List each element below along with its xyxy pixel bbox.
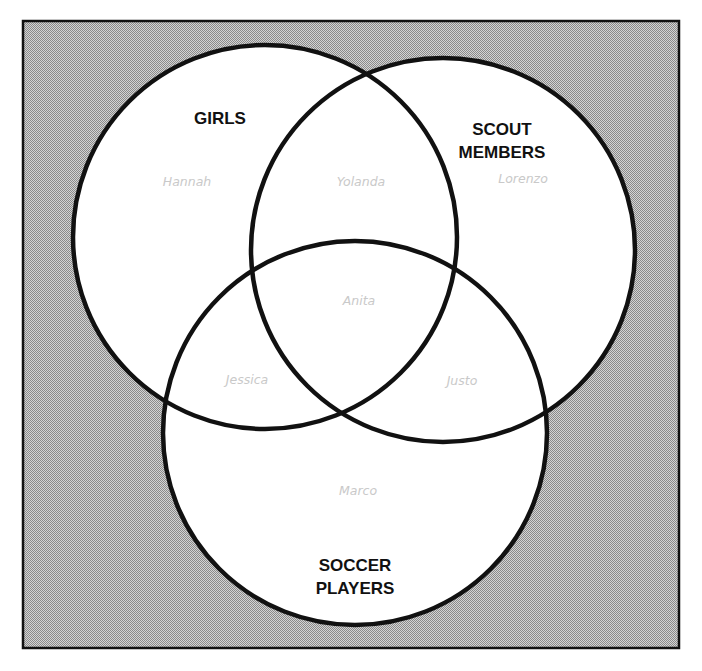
- member-yolanda: Yolanda: [337, 174, 386, 189]
- member-marco: Marco: [339, 483, 377, 498]
- member-lorenzo: Lorenzo: [498, 171, 548, 186]
- scout-label-line2: MEMBERS: [459, 143, 546, 162]
- girls-label: GIRLS: [194, 109, 246, 128]
- soccer-label-line1: SOCCER: [319, 556, 392, 575]
- soccer-label-line2: PLAYERS: [316, 579, 395, 598]
- scout-label-line1: SCOUT: [472, 120, 532, 139]
- member-justo: Justo: [444, 373, 478, 388]
- member-jessica: Jessica: [223, 372, 268, 387]
- member-anita: Anita: [342, 293, 376, 308]
- member-hannah: Hannah: [163, 174, 212, 189]
- venn-diagram: GIRLS SCOUT MEMBERS SOCCER PLAYERS Hanna…: [0, 0, 702, 671]
